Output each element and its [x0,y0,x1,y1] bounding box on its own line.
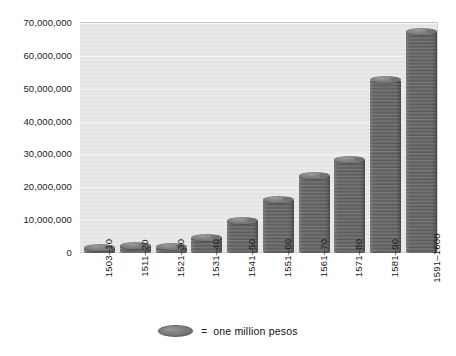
coin-top-icon [334,156,365,163]
coin-top-icon [299,172,330,179]
coin-stack-body [406,31,437,253]
chart-root: 010,000,00020,000,00030,000,00040,000,00… [0,0,456,356]
x-axis-tick-label: 1571–80 [334,256,365,269]
y-axis-tick-label: 0 [67,247,72,258]
coin-notch [283,197,292,201]
coin-notch [426,29,435,33]
y-axis-tick-label: 20,000,000 [23,181,72,192]
x-axis-tick-label: 1581–90 [370,256,401,269]
coin-notch [354,157,363,161]
x-axis-tick-label: 1561–70 [299,256,330,269]
bar-coin-stack [370,80,401,253]
legend-label: one million pesos [213,325,298,337]
coin-notch [319,173,328,177]
x-axis-tick-label: 1551–60 [263,256,294,269]
y-axis-tick-label: 30,000,000 [23,148,72,159]
coin-notch [390,77,399,81]
x-axis-tick-label: 1541–50 [227,256,258,269]
coin-top-icon [370,76,401,83]
y-axis-tick-label: 60,000,000 [23,49,72,60]
y-axis-tick-label: 40,000,000 [23,115,72,126]
x-axis: 1503–101511–201521–301531–401541–501551–… [80,256,437,316]
plot-area [80,22,438,253]
coin-stack-body [370,80,401,253]
y-axis-tick-label: 70,000,000 [23,17,72,28]
x-axis-tick-label: 1521–30 [156,256,187,269]
coin-top-icon [406,28,437,35]
y-axis-tick-label: 50,000,000 [23,82,72,93]
legend-equals: = [201,326,207,337]
x-axis-tick-label: 1511–20 [120,256,151,269]
coin-icon [158,325,193,337]
coin-top-icon [263,196,294,203]
x-axis-tick-label: 1531–40 [191,256,222,269]
x-axis-tick-label: 1591–1600 [406,256,437,269]
bar-coin-stack [406,31,437,253]
x-axis-tick-label: 1503–10 [84,256,115,269]
y-axis: 010,000,00020,000,00030,000,00040,000,00… [0,16,76,260]
coin-top-icon [227,217,258,224]
bar-series [80,23,437,253]
coin-notch [247,218,256,222]
legend: = one million pesos [0,325,456,337]
y-axis-tick-label: 10,000,000 [23,214,72,225]
